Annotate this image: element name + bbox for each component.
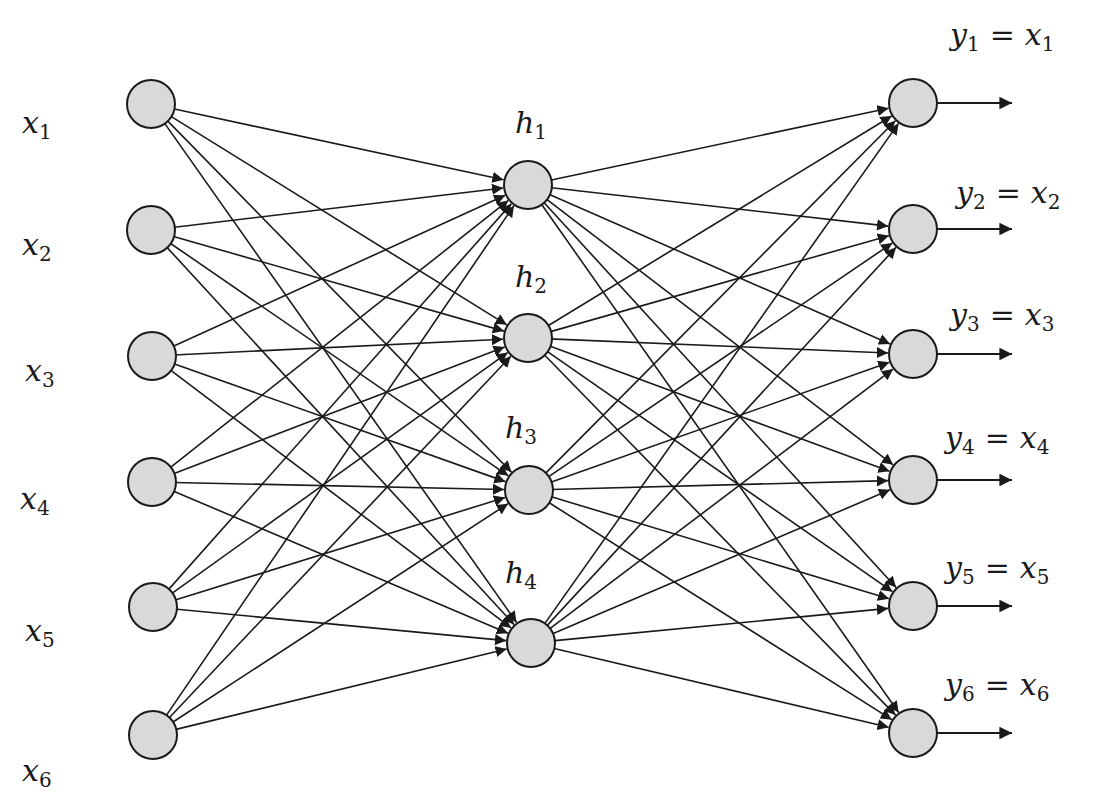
edge-x4-h3	[174, 482, 504, 489]
output-label-y3: y3=x3	[950, 300, 1054, 334]
hidden-label-h1: h1	[515, 108, 547, 142]
edge-x1-h1	[172, 109, 503, 180]
edge-x4-h1	[169, 200, 508, 468]
hidden-node-h3	[505, 466, 553, 514]
edge-x1-h4	[163, 122, 516, 623]
input-label-x6: x6	[22, 756, 52, 790]
edges	[163, 103, 1012, 733]
input-label-x2: x2	[22, 230, 52, 264]
output-node-y6	[889, 709, 937, 757]
input-label-x5: x5	[25, 616, 55, 650]
edge-x4-h2	[172, 347, 504, 474]
output-label-y1: y1=x1	[950, 20, 1054, 54]
edge-x3-h2	[174, 339, 503, 355]
edge-h3-y4	[551, 481, 888, 490]
input-node-x4	[128, 458, 176, 506]
input-node-x6	[129, 711, 177, 759]
hidden-label-h4: h4	[505, 558, 537, 592]
edge-x2-h3	[169, 242, 509, 476]
edge-x2-h2	[172, 236, 504, 331]
edge-x5-h1	[167, 204, 511, 591]
edge-x6-h1	[165, 206, 514, 717]
output-node-y5	[889, 582, 937, 630]
edge-h2-y3	[550, 339, 888, 353]
input-node-x1	[127, 80, 175, 128]
edge-x3-h1	[172, 195, 506, 347]
network-graph	[0, 0, 1100, 812]
input-node-x5	[129, 583, 177, 631]
hidden-node-h1	[504, 161, 552, 209]
edge-h1-y1	[549, 108, 888, 180]
edge-h1-y5	[543, 201, 897, 588]
hidden-node-h2	[504, 314, 552, 362]
edge-x3-h4	[169, 369, 511, 628]
edge-x3-h3	[172, 363, 505, 481]
edge-x2-h1	[172, 188, 503, 227]
output-label-y6: y6=x6	[945, 670, 1049, 704]
output-node-y3	[889, 330, 937, 378]
output-node-y2	[889, 205, 937, 253]
edge-h1-y4	[545, 198, 893, 465]
edge-h1-y6	[540, 203, 898, 713]
input-label-x3: x3	[25, 356, 55, 390]
output-label-y4: y4=x4	[945, 423, 1049, 457]
output-label-y5: y5=x5	[945, 553, 1049, 587]
edge-x5-h2	[171, 353, 508, 595]
edge-h2-y4	[548, 345, 889, 471]
edge-h2-y2	[549, 236, 889, 332]
input-node-x2	[127, 206, 175, 254]
edge-h4-y6	[552, 648, 889, 727]
edge-h4-y1	[543, 123, 898, 625]
autoencoder-diagram: x1x2x3x4x5x6h1h2h3h4y1=x1y2=x2y3=x3y4=x4…	[0, 0, 1100, 812]
edge-x2-h4	[166, 246, 514, 625]
edge-h3-y2	[547, 243, 892, 478]
edge-h4-y2	[546, 247, 896, 627]
output-label-y2: y2=x2	[956, 178, 1060, 212]
output-node-y1	[889, 79, 937, 127]
hidden-node-h4	[507, 619, 555, 667]
input-label-x1: x1	[22, 108, 52, 142]
edge-h1-y3	[548, 194, 890, 344]
hidden-label-h2: h2	[515, 262, 547, 296]
output-node-y4	[889, 456, 937, 504]
input-label-x4: x4	[20, 484, 50, 518]
edge-h1-y2	[549, 187, 888, 226]
hidden-label-h3: h3	[505, 413, 537, 447]
input-node-x3	[128, 332, 176, 380]
edge-h2-y5	[546, 350, 893, 591]
edge-x1-h2	[169, 115, 506, 324]
